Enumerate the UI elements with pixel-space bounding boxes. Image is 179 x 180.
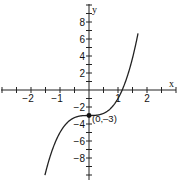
y-intercept-point [87,113,92,118]
y-intercept-label: (0,–3) [92,113,117,124]
y-axis-label: y [92,4,97,15]
axes [1,4,176,180]
x-axis-label: x [169,78,174,89]
y-tick-label: −8 [74,153,86,164]
y-tick-label: −4 [74,119,86,130]
y-tick-label: −2 [74,102,86,113]
cubic-function-graph: −2−112 8642−2−4−6−8 x y (0,–3) [0,0,179,180]
x-tick-label: −2 [22,93,34,104]
y-tick-label: 2 [79,68,85,79]
y-tick-label: 4 [79,51,85,62]
y-tick-label: −6 [74,136,86,147]
x-tick-label: −1 [51,93,63,104]
y-tick-label: 8 [79,17,85,28]
x-tick-label: 2 [144,93,150,104]
y-tick-label: 6 [79,34,85,45]
function-curve [45,33,138,175]
